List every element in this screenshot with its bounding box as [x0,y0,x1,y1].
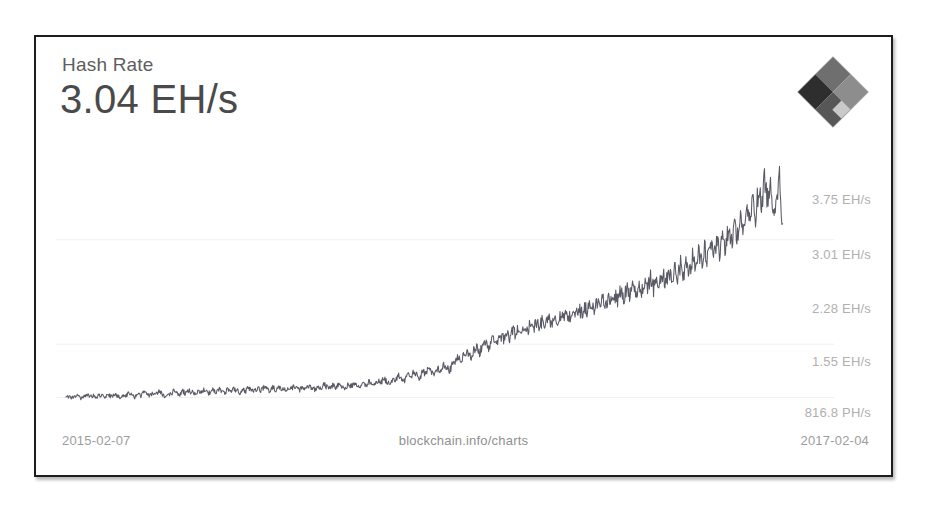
card-header: Hash Rate 3.04 EH/s [36,37,891,147]
y-axis-label-2: 2.28 EH/s [812,301,871,316]
page-title: Hash Rate [62,54,154,76]
axis-date-end: 2017-02-04 [801,433,870,448]
card-footer: 2015-02-07 blockchain.info/charts 2017-0… [36,427,891,475]
y-axis-label-4: 816.8 PH/s [805,405,871,420]
hash-rate-series-line [66,166,783,399]
current-value: 3.04 EH/s [60,77,238,122]
plot-area: 3.75 EH/s3.01 EH/s2.28 EH/s1.55 EH/s816.… [38,149,889,425]
hash-rate-line-chart [38,149,889,425]
axis-date-start: 2015-02-07 [62,433,131,448]
blockchain-diamond-logo-icon [795,54,871,130]
y-axis-label-0: 3.75 EH/s [812,192,871,207]
y-axis-label-3: 1.55 EH/s [812,354,871,369]
y-axis-label-1: 3.01 EH/s [812,247,871,262]
hash-rate-chart-card: Hash Rate 3.04 EH/s 3.75 EH/s3.01 EH/s2.… [34,35,893,477]
source-label: blockchain.info/charts [399,433,528,448]
gridlines [56,240,834,425]
